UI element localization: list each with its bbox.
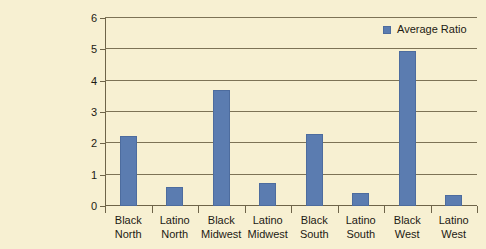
y-axis-tick-label: 0 xyxy=(91,201,97,212)
y-axis-tick-label: 4 xyxy=(91,75,97,86)
x-axis-category-label: BlackNorth xyxy=(105,214,152,241)
bar xyxy=(352,193,369,206)
x-axis-category-label-line: South xyxy=(291,228,338,242)
x-axis-category-label-line: West xyxy=(384,228,431,242)
chart-legend: Average Ratio xyxy=(383,24,467,35)
y-axis-tick-label: 5 xyxy=(91,44,97,55)
bar-chart-figure: 0123456 BlackNorthLatinoNorthBlackMidwes… xyxy=(0,0,486,249)
x-axis-category-label-line: Midwest xyxy=(245,228,292,242)
x-axis-category-label: BlackSouth xyxy=(291,214,338,241)
x-axis-tick xyxy=(338,206,339,213)
x-axis-category-label-line: West xyxy=(431,228,478,242)
bar xyxy=(399,51,416,206)
x-axis-category-label: BlackWest xyxy=(384,214,431,241)
x-axis-category-label: LatinoNorth xyxy=(152,214,199,241)
x-axis-category-label: LatinoMidwest xyxy=(245,214,292,241)
x-axis-category-label-line: Black xyxy=(384,214,431,228)
x-axis-category-label-line: Latino xyxy=(152,214,199,228)
x-axis-tick xyxy=(477,206,478,213)
x-axis-tick xyxy=(198,206,199,213)
x-axis-category-label-line: South xyxy=(338,228,385,242)
x-axis-tick-group xyxy=(105,206,477,213)
bar xyxy=(445,195,462,206)
x-axis-category-label-line: Latino xyxy=(431,214,478,228)
bar xyxy=(166,187,183,206)
x-axis-category-label-line: Black xyxy=(198,214,245,228)
legend-swatch-icon xyxy=(383,26,391,34)
x-axis-category-label: LatinoSouth xyxy=(338,214,385,241)
x-axis-category-label: LatinoWest xyxy=(431,214,478,241)
bars-group xyxy=(105,18,477,206)
y-axis-tick-label: 1 xyxy=(91,169,97,180)
bar xyxy=(213,90,230,206)
x-axis-category-label-line: North xyxy=(105,228,152,242)
bar xyxy=(259,183,276,206)
x-axis-category-label-line: Black xyxy=(291,214,338,228)
y-axis-tick-label: 6 xyxy=(91,13,97,24)
y-axis-tick-label: 2 xyxy=(91,138,97,149)
x-axis-category-label-line: Midwest xyxy=(198,228,245,242)
x-axis-category-label-line: Black xyxy=(105,214,152,228)
x-axis-tick xyxy=(431,206,432,213)
x-axis-label-group: BlackNorthLatinoNorthBlackMidwestLatinoM… xyxy=(105,214,477,246)
bar xyxy=(120,136,137,207)
legend-entry-label: Average Ratio xyxy=(397,24,467,35)
x-axis-tick xyxy=(105,206,106,213)
x-axis-category-label: BlackMidwest xyxy=(198,214,245,241)
x-axis-tick xyxy=(291,206,292,213)
plot-area: 0123456 xyxy=(105,18,477,206)
x-axis-category-label-line: North xyxy=(152,228,199,242)
x-axis-tick xyxy=(245,206,246,213)
x-axis-category-label-line: Latino xyxy=(338,214,385,228)
x-axis-category-label-line: Latino xyxy=(245,214,292,228)
x-axis-tick xyxy=(152,206,153,213)
bar xyxy=(306,134,323,206)
x-axis-tick xyxy=(384,206,385,213)
y-axis-tick-label: 3 xyxy=(91,107,97,118)
